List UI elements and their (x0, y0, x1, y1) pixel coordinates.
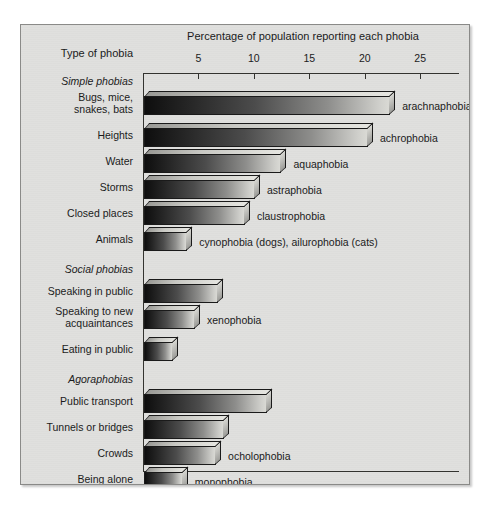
bar-3d (144, 441, 216, 465)
bar-3d (144, 227, 187, 251)
bar-category-label: Heights (21, 130, 133, 142)
bar-3d (144, 389, 267, 413)
bar-annotation: xenophobia (207, 314, 261, 326)
bar-front-face (144, 446, 216, 465)
bar-category-label: Tunnels or bridges (21, 422, 133, 434)
bar-side-face (367, 123, 373, 147)
bar-row: Speaking in public (21, 279, 469, 305)
bar-front-face (144, 128, 368, 147)
bar-3d (144, 201, 245, 225)
bar-annotation: cynophobia (dogs), ailurophobia (cats) (199, 236, 378, 248)
bar-3d (144, 467, 183, 485)
bar-row: Bugs, mice,snakes, batsarachnaphobia (sp… (21, 91, 469, 117)
x-tick-mark (309, 73, 310, 79)
bar-front-face (144, 206, 245, 225)
bar-front-face (144, 96, 390, 115)
bar-category-label: Eating in public (21, 344, 133, 356)
bar-front-face (144, 342, 173, 361)
bar-side-face (186, 227, 192, 251)
bar-category-label: Storms (21, 182, 133, 194)
bar-side-face (194, 305, 200, 329)
bar-category-label: Public transport (21, 396, 133, 408)
bar-category-label: Speaking to newacquaintances (21, 306, 133, 329)
bar-front-face (144, 232, 187, 251)
bar-annotation: achrophobia (380, 132, 438, 144)
bar-front-face (144, 284, 218, 303)
bar-row: Eating in public (21, 337, 469, 363)
bar-3d (144, 123, 368, 147)
bar-category-label: Being alone (21, 474, 133, 485)
bar-annotation: monophobia (195, 476, 253, 485)
chart-title: Percentage of population reporting each … (143, 30, 463, 42)
x-tick-label: 20 (359, 52, 371, 64)
bar-annotation: arachnaphobia (spiders) (402, 100, 470, 112)
bar-3d (144, 305, 195, 329)
bar-3d (144, 279, 218, 303)
bar-front-face (144, 154, 281, 173)
bar-front-face (144, 472, 183, 485)
bar-row: Crowdsocholophobia (21, 441, 469, 467)
bar-side-face (172, 337, 178, 361)
bar-row: Public transport (21, 389, 469, 415)
bar-annotation: claustrophobia (257, 210, 325, 222)
bar-row: Heightsachrophobia (21, 123, 469, 149)
bar-3d (144, 175, 255, 199)
bar-side-face (266, 389, 272, 413)
bar-annotation: ocholophobia (228, 450, 290, 462)
bar-annotation: astraphobia (267, 184, 322, 196)
chart-plot-area: Percentage of population reporting each … (21, 25, 469, 484)
bar-category-label: Bugs, mice,snakes, bats (21, 92, 133, 115)
bar-side-face (254, 175, 260, 199)
x-tick-mark (365, 73, 366, 79)
bar-row: Tunnels or bridges (21, 415, 469, 441)
bar-category-label: Animals (21, 234, 133, 246)
bar-side-face (244, 201, 250, 225)
bar-side-face (280, 149, 286, 173)
bar-row: Speaking to newacquaintancesxenophobia (21, 305, 469, 331)
group-heading-simple-phobias: Simple phobias (21, 75, 133, 87)
bar-annotation: aquaphobia (293, 158, 348, 170)
bar-3d (144, 149, 281, 173)
bar-category-label: Speaking in public (21, 286, 133, 298)
bar-row: Being alonemonophobia (21, 467, 469, 485)
bar-row: Wateraquaphobia (21, 149, 469, 175)
bar-category-label: Closed places (21, 208, 133, 220)
bar-front-face (144, 180, 255, 199)
bar-3d (144, 91, 390, 115)
bar-row: Closed placesclaustrophobia (21, 201, 469, 227)
chart-panel: Percentage of population reporting each … (20, 24, 470, 485)
group-heading-agoraphobias: Agoraphobias (21, 373, 133, 385)
bar-front-face (144, 420, 224, 439)
bar-3d (144, 337, 173, 361)
x-tick-mark (198, 73, 199, 79)
x-tick-mark (254, 73, 255, 79)
axis-header-label: Type of phobia (21, 47, 133, 59)
x-tick-label: 5 (196, 52, 202, 64)
x-tick-label: 15 (303, 52, 315, 64)
bar-side-face (389, 91, 395, 115)
x-tick-label: 25 (414, 52, 426, 64)
bar-front-face (144, 310, 195, 329)
bar-category-label: Water (21, 156, 133, 168)
x-tick-mark (420, 73, 421, 79)
bar-side-face (223, 415, 229, 439)
bar-side-face (217, 279, 223, 303)
bar-front-face (144, 394, 267, 413)
group-heading-social-phobias: Social phobias (21, 263, 133, 275)
bar-category-label: Crowds (21, 448, 133, 460)
bar-row: Stormsastraphobia (21, 175, 469, 201)
x-tick-label: 10 (248, 52, 260, 64)
bar-3d (144, 415, 224, 439)
x-axis-line (143, 73, 459, 74)
bar-row: Animalscynophobia (dogs), ailurophobia (… (21, 227, 469, 253)
bar-side-face (215, 441, 221, 465)
